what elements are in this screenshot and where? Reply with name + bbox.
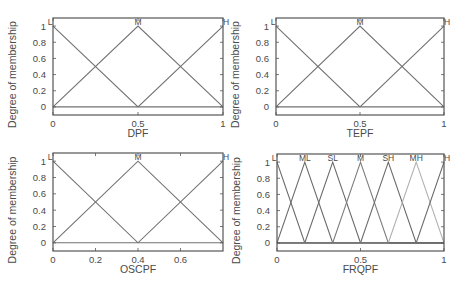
y-tick-label: 1 <box>264 21 269 32</box>
y-axis-label: Degree of membership <box>229 21 241 128</box>
y-tick-label: 0 <box>265 237 270 248</box>
x-tick-label: 1 <box>441 118 446 129</box>
x-tick-label: 0 <box>274 254 279 265</box>
mf-curve-m <box>277 162 444 243</box>
y-tick-label: 0.6 <box>33 188 46 199</box>
y-tick-label: 1 <box>41 21 46 32</box>
mf-label-h: H <box>444 153 450 163</box>
mf-label-l: L <box>48 17 53 27</box>
mf-curve-mh <box>277 162 444 243</box>
mf-curve-sh <box>277 162 444 243</box>
y-axis-label: Degree of membership <box>6 21 18 128</box>
y-tick-label: 0 <box>41 237 46 248</box>
y-tick-label: 0.4 <box>256 69 269 80</box>
y-tick-label: 0.4 <box>257 205 270 216</box>
axes-frame <box>53 153 223 251</box>
y-tick-label: 0.4 <box>33 69 46 80</box>
figure-canvas: LMH00.20.40.60.8100.51DPFDegree of membe… <box>0 0 460 290</box>
y-tick-label: 0.8 <box>33 37 46 48</box>
y-tick-label: 0.6 <box>257 189 270 200</box>
mf-label-h: H <box>444 17 450 27</box>
subplot-oscpf: LMH00.20.40.60.8100.20.40.6OSCPFDegree o… <box>6 152 229 275</box>
y-tick-label: 0.8 <box>257 173 270 184</box>
y-tick-label: 0.8 <box>33 172 46 183</box>
axes-frame <box>53 18 223 115</box>
mf-curve-h <box>53 26 223 107</box>
mf-curve-h <box>277 162 444 243</box>
y-axis-label: Degree of membership <box>6 156 18 263</box>
subplot-tepf: LMH00.20.40.60.8100.51TEPFDegree of memb… <box>229 17 450 139</box>
mf-curve-m <box>53 161 223 243</box>
x-tick-label: 1 <box>441 254 446 265</box>
subplot-frqpf: LMLSLMSHMHH00.20.40.60.8100.51FRQPFDegre… <box>230 153 450 275</box>
x-axis-label: FRQPF <box>343 263 379 275</box>
y-tick-label: 1 <box>41 156 46 167</box>
x-axis-label: TEPF <box>347 127 374 139</box>
y-tick-label: 0 <box>41 101 46 112</box>
y-tick-label: 0.6 <box>256 53 269 64</box>
y-tick-label: 0.2 <box>257 221 270 232</box>
x-tick-label: 0 <box>50 118 55 129</box>
y-tick-label: 1 <box>265 157 270 168</box>
subplot-dpf: LMH00.20.40.60.8100.51DPFDegree of membe… <box>6 17 229 139</box>
mf-label-l: L <box>272 153 277 163</box>
x-tick-label: 0.6 <box>174 254 187 265</box>
mf-label-h: H <box>223 152 229 162</box>
mf-curve-m <box>276 26 444 107</box>
y-tick-label: 0.6 <box>33 53 46 64</box>
mf-curve-ml <box>277 162 444 243</box>
y-tick-label: 0.8 <box>256 37 269 48</box>
y-tick-label: 0.2 <box>33 221 46 232</box>
y-axis-label: Degree of membership <box>230 157 242 264</box>
mf-curve-m <box>53 26 223 107</box>
x-tick-label: 0 <box>50 254 55 265</box>
y-tick-label: 0.4 <box>33 205 46 216</box>
mf-curve-h <box>276 26 444 107</box>
y-tick-label: 0 <box>264 101 269 112</box>
axes-frame <box>276 18 444 115</box>
mf-curve-l <box>53 26 223 107</box>
mf-label-l: L <box>271 17 276 27</box>
mf-curve-l <box>53 161 223 243</box>
x-axis-label: DPF <box>128 127 149 139</box>
mf-curve-sl <box>277 162 444 243</box>
x-tick-label: 0 <box>273 118 278 129</box>
mf-curve-l <box>276 26 444 107</box>
y-tick-label: 0.2 <box>256 85 269 96</box>
mf-label-l: L <box>48 152 53 162</box>
x-tick-label: 0.2 <box>89 254 102 265</box>
membership-function-figure: LMH00.20.40.60.8100.51DPFDegree of membe… <box>0 0 460 290</box>
x-tick-label: 1 <box>220 118 225 129</box>
mf-curve-h <box>53 161 223 243</box>
mf-curve-l <box>277 162 444 243</box>
x-axis-label: OSCPF <box>120 263 156 275</box>
y-tick-label: 0.2 <box>33 85 46 96</box>
